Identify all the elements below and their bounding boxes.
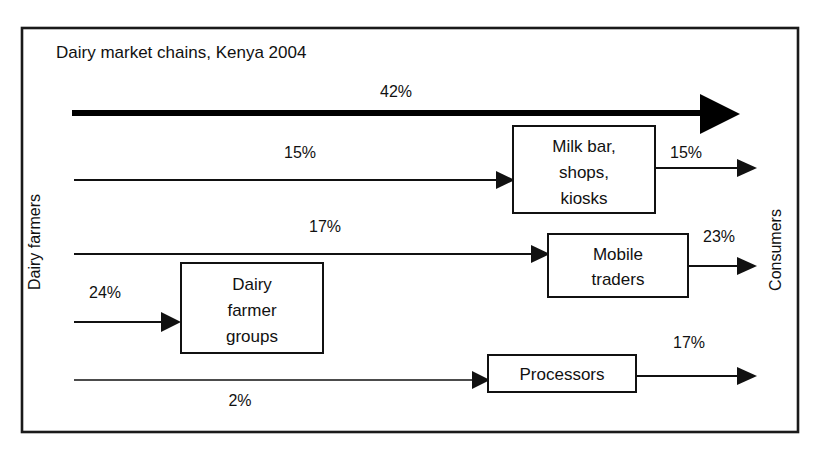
flow-value-15-in: 15% [284, 144, 316, 161]
flow-mobiletraders-to-consumers: 23% [688, 228, 757, 275]
flow-value-15-out: 15% [670, 144, 702, 161]
node-mobile-traders[interactable]: Mobile traders [548, 234, 688, 297]
flow-farmers-to-milkbar: 15% [74, 144, 515, 189]
page-title: Dairy market chains, Kenya 2004 [56, 43, 306, 62]
flow-farmers-to-farmergroups: 24% [74, 284, 181, 332]
node-label-milk-bar-line1: Milk bar, [552, 137, 615, 156]
flow-farmers-to-processors: 2% [74, 371, 490, 409]
arrow-head-23 [737, 257, 757, 275]
sink-axis-label: Consumers [767, 209, 784, 291]
arrow-head-42 [700, 94, 740, 134]
source-axis-label: Dairy farmers [26, 194, 43, 290]
flow-value-23: 23% [703, 228, 735, 245]
flow-value-42: 42% [380, 83, 412, 100]
flow-value-24: 24% [89, 284, 121, 301]
arrow-head-24 [161, 312, 181, 332]
arrow-head-15-out [737, 159, 757, 177]
node-label-mobile-traders-line2: traders [592, 270, 645, 289]
flow-farmers-to-mobiletraders: 17% [74, 218, 550, 263]
flow-processors-to-consumers: 17% [636, 334, 757, 385]
node-label-milk-bar-line2: shops, [559, 163, 609, 182]
flow-value-2: 2% [228, 392, 251, 409]
flow-value-17-in: 17% [309, 218, 341, 235]
node-processors[interactable]: Processors [488, 355, 636, 392]
node-label-farmer-groups-line1: Dairy [232, 275, 272, 294]
node-label-milk-bar-line3: kiosks [560, 189, 607, 208]
dairy-market-chain-diagram: Dairy market chains, Kenya 2004 Dairy fa… [0, 0, 820, 450]
node-dairy-farmer-groups[interactable]: Dairy farmer groups [181, 263, 323, 353]
diagram-root: Dairy market chains, Kenya 2004 Dairy fa… [0, 0, 820, 450]
node-label-mobile-traders-line1: Mobile [593, 245, 643, 264]
node-milk-bar-shops-kiosks[interactable]: Milk bar, shops, kiosks [513, 126, 655, 213]
node-label-processors: Processors [519, 365, 604, 384]
flow-milkbar-to-consumers: 15% [655, 144, 757, 177]
flow-value-17-out: 17% [673, 334, 705, 351]
node-label-farmer-groups-line2: farmer [227, 301, 276, 320]
node-label-farmer-groups-line3: groups [226, 327, 278, 346]
arrow-head-17-out [737, 367, 757, 385]
